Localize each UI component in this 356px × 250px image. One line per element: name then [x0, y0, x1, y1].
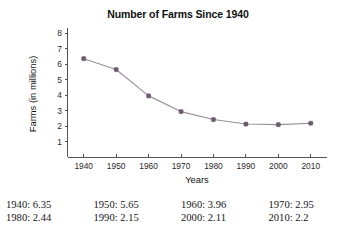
x-tick-label: 1960	[139, 161, 158, 171]
line-chart-plot: 12345678 Farms (in millions) 19401950196…	[0, 0, 356, 196]
table-row: 1980: 2.44 1990: 2.15 2000: 2.11 2010: 2…	[6, 211, 356, 224]
data-cell: 1990: 2.15	[94, 211, 182, 224]
x-tick-label: 1980	[204, 161, 223, 171]
chart-figure: Number of Farms Since 1940 12345678 Farm…	[0, 0, 356, 196]
y-tick-label: 6	[57, 59, 62, 69]
data-point-marker: 2010: 2.2	[309, 121, 313, 125]
data-cell: 1980: 2.44	[6, 211, 94, 224]
y-axis-title: Farms (in millions)	[27, 56, 38, 133]
x-axis-title: Years	[185, 174, 209, 185]
y-tick-label: 7	[57, 44, 62, 54]
x-tick-label: 2000	[269, 161, 288, 171]
data-series: 1940: 6.351950: 5.651960: 3.961970: 2.95…	[82, 57, 313, 127]
x-axis: 19401950196019701980199020002010 Years	[68, 154, 328, 185]
x-tick-label: 1970	[172, 161, 191, 171]
y-tick-label: 4	[57, 90, 62, 100]
data-point-marker: 1980: 2.44	[211, 117, 215, 121]
data-cell: 1960: 3.96	[181, 198, 269, 211]
x-tick-label: 1990	[237, 161, 256, 171]
data-cell: 1940: 6.35	[6, 198, 94, 211]
data-point-marker: 1950: 5.65	[114, 67, 118, 71]
y-tick-label: 5	[57, 75, 62, 85]
x-tick-label: 1950	[107, 161, 126, 171]
data-point-marker: 1940: 6.35	[82, 57, 86, 61]
data-point-marker: 1960: 3.96	[146, 94, 150, 98]
data-point-marker: 2000: 2.11	[276, 123, 280, 127]
data-cell: 1970: 2.95	[269, 198, 356, 211]
data-value-table-grid: 1940: 6.35 1950: 5.65 1960: 3.96 1970: 2…	[6, 198, 356, 224]
y-tick-label: 8	[57, 28, 62, 38]
data-cell: 2010: 2.2	[269, 211, 356, 224]
x-tick-label: 2010	[301, 161, 320, 171]
data-cell: 2000: 2.11	[181, 211, 269, 224]
data-cell: 1950: 5.65	[94, 198, 182, 211]
y-tick-label: 1	[57, 137, 62, 147]
y-tick-label: 2	[57, 121, 62, 131]
y-tick-label: 3	[57, 106, 62, 116]
data-point-marker: 1970: 2.95	[179, 109, 183, 113]
y-axis: 12345678 Farms (in millions)	[27, 28, 68, 157]
x-tick-label: 1940	[74, 161, 93, 171]
data-point-marker: 1990: 2.15	[244, 122, 248, 126]
data-value-table: 1940: 6.35 1950: 5.65 1960: 3.96 1970: 2…	[0, 198, 356, 224]
table-row: 1940: 6.35 1950: 5.65 1960: 3.96 1970: 2…	[6, 198, 356, 211]
